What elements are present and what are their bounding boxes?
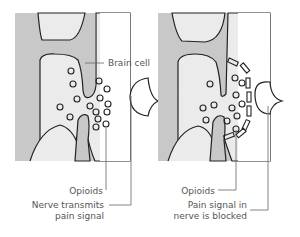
label-brain-cell: Brain cell (108, 58, 150, 68)
label-blocked-line2: nerve is blocked (173, 211, 247, 221)
label-opioids-right: Opioids (181, 186, 215, 196)
label-nerve-line2: pain signal (55, 211, 104, 221)
left-panel: Brain cell Opioids Nerve transmits pain … (15, 13, 158, 221)
right-panel: Opioids Pain signal in nerve is blocked (158, 13, 282, 221)
label-blocked-line1: Pain signal in (188, 200, 247, 210)
label-opioids-left: Opioids (69, 186, 103, 196)
label-nerve-line1: Nerve transmits (32, 200, 105, 210)
opioid-diagram: Brain cell Opioids Nerve transmits pain … (0, 0, 300, 237)
